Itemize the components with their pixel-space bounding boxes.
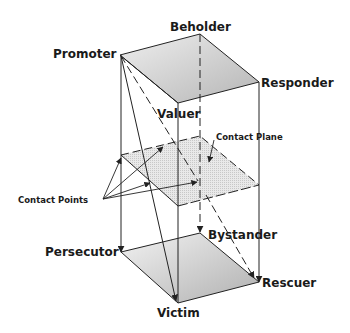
contact-point-arrow-1 bbox=[103, 158, 121, 199]
label-promoter: Promoter bbox=[53, 47, 117, 61]
label-victim: Victim bbox=[157, 306, 200, 320]
label-persecutor: Persecutor bbox=[45, 245, 119, 259]
top-plane bbox=[120, 34, 259, 103]
contact-point-arrow-3 bbox=[103, 183, 150, 199]
label-beholder: Beholder bbox=[170, 20, 231, 34]
label-rescuer: Rescuer bbox=[262, 276, 316, 290]
bottom-plane bbox=[121, 233, 259, 303]
label-contact-plane: Contact Plane bbox=[216, 132, 283, 142]
label-contact-points: Contact Points bbox=[18, 195, 88, 205]
label-valuer: Valuer bbox=[157, 107, 201, 121]
label-bystander: Bystander bbox=[208, 228, 277, 242]
tetrahedral-role-diagram: Beholder Promoter Responder Valuer Conta… bbox=[0, 0, 350, 333]
label-responder: Responder bbox=[261, 76, 334, 90]
